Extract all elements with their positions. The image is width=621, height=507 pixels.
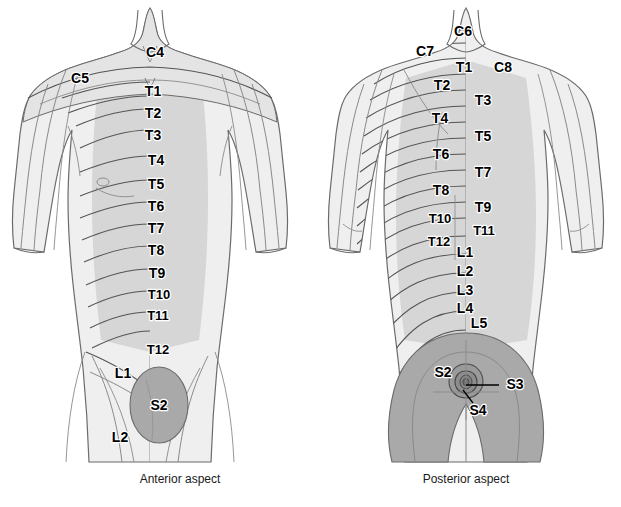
dermatome-label-posterior-c6: C6: [454, 23, 472, 39]
dermatome-label-anterior-t5: T5: [148, 176, 165, 192]
dermatome-illustration: C4C5T1T2T3T4T5T6T7T8T9T10T11T12L1S2L2: [0, 0, 621, 507]
dermatome-label-anterior-t4: T4: [148, 152, 165, 168]
caption-posterior: Posterior aspect: [423, 472, 510, 486]
dermatome-label-anterior-t10: T10: [148, 287, 170, 302]
dermatome-label-posterior-t4: T4: [432, 110, 449, 126]
dermatome-label-posterior-l5: L5: [471, 315, 488, 331]
dermatome-label-anterior-s2: S2: [150, 397, 167, 413]
dermatome-label-anterior-t2: T2: [145, 105, 162, 121]
dermatome-label-posterior-t7: T7: [475, 164, 492, 180]
dermatome-label-posterior-t11: T11: [473, 223, 495, 238]
dermatome-label-posterior-t2: T2: [434, 77, 451, 93]
dermatome-label-posterior-t12: T12: [428, 234, 450, 249]
dermatome-label-anterior-t11: T11: [147, 308, 169, 323]
dermatome-label-posterior-t10: T10: [429, 211, 451, 226]
dermatome-label-posterior-l4: L4: [457, 300, 474, 316]
dermatome-label-posterior-c7: C7: [416, 43, 434, 59]
anterior-thoracic-shading: [92, 78, 150, 352]
dermatome-label-posterior-t8: T8: [433, 182, 450, 198]
dermatome-label-posterior-t5: T5: [475, 128, 492, 144]
dermatome-label-anterior-t7: T7: [148, 220, 165, 236]
dermatome-label-posterior-c8: C8: [494, 59, 512, 75]
dermatome-label-anterior-c4: C4: [146, 44, 164, 60]
dermatome-label-anterior-t12: T12: [147, 342, 169, 357]
dermatome-label-anterior-t9: T9: [149, 265, 166, 281]
dermatome-label-posterior-l1: L1: [457, 244, 474, 260]
dermatome-label-anterior-t6: T6: [148, 198, 165, 214]
caption-anterior: Anterior aspect: [140, 472, 221, 486]
dermatome-label-anterior-l1: L1: [115, 365, 132, 381]
dermatome-label-posterior-l3: L3: [457, 282, 474, 298]
dermatome-label-posterior-l2: L2: [457, 263, 474, 279]
dermatome-label-posterior-t1: T1: [456, 59, 473, 75]
dermatome-label-posterior-s2: S2: [434, 364, 451, 380]
dermatome-label-anterior-c5: C5: [71, 70, 89, 86]
dermatome-figure: C4C5T1T2T3T4T5T6T7T8T9T10T11T12L1S2L2: [0, 0, 621, 507]
dermatome-label-anterior-l2: L2: [112, 429, 129, 445]
dermatome-label-posterior-t3: T3: [475, 92, 492, 108]
dermatome-label-posterior-t6: T6: [433, 146, 450, 162]
dermatome-label-posterior-t9: T9: [475, 199, 492, 215]
anterior-figure: C4C5T1T2T3T4T5T6T7T8T9T10T11T12L1S2L2: [13, 8, 288, 462]
dermatome-label-anterior-t1: T1: [145, 83, 162, 99]
dermatome-label-anterior-t8: T8: [148, 242, 165, 258]
posterior-figure: C6C7T1C8T2T3T4T5T6T7T8T9T10T11T12L1L2L3L…: [329, 8, 604, 462]
dermatome-label-posterior-s4: S4: [469, 402, 486, 418]
dermatome-label-anterior-t3: T3: [145, 127, 162, 143]
dermatome-label-posterior-s3: S3: [506, 376, 523, 392]
